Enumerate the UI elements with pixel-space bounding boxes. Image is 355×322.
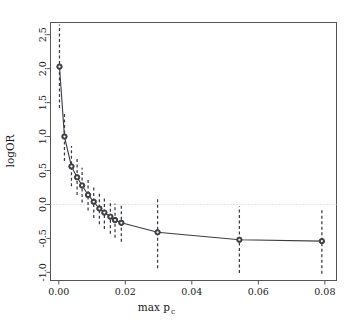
data-point-center [76,176,78,178]
x-axis-title: max p [138,301,170,313]
data-point-center [238,239,240,241]
data-points-group [57,64,325,244]
y-tick-label: 2.5 [37,27,48,42]
series-polyline [59,67,321,241]
data-point-center [81,184,83,186]
data-point-center [98,207,100,209]
data-point-center [87,194,89,196]
y-tick-label: -1.0 [37,263,48,281]
x-tick-label: 0.06 [248,286,269,297]
x-tick-label: 0.04 [181,286,202,297]
chart-container: -1.0-0.50.00.51.01.52.02.5 0.000.020.040… [0,0,355,322]
x-axis-title-subscript: c [171,307,175,316]
y-tick-label: -0.5 [37,229,48,247]
series-line-group [59,67,321,241]
x-tick-label: 0.08 [314,286,335,297]
logor-vs-maxpc-chart: -1.0-0.50.00.51.01.52.02.5 0.000.020.040… [0,0,355,322]
x-tick-label: 0.00 [48,286,69,297]
data-point-center [321,240,323,242]
y-axis-title: logOR [4,133,16,167]
data-point-center [70,165,72,167]
plot-frame [51,23,337,281]
data-point-center [63,135,65,137]
y-tick-label: 0.0 [37,197,48,212]
y-tick-label: 1.5 [37,95,48,110]
data-point-center [93,201,95,203]
data-point-center [58,66,60,68]
data-point-center [109,216,111,218]
y-tick-label: 1.0 [37,129,48,144]
data-point-center [120,222,122,224]
error-bars-group [59,25,321,274]
data-point-center [103,212,105,214]
y-tick-label: 2.0 [37,61,48,76]
y-axis: -1.0-0.50.00.51.01.52.02.5 [37,27,51,281]
data-point-center [114,219,116,221]
data-point-center [156,231,158,233]
x-tick-label: 0.02 [115,286,136,297]
y-tick-label: 0.5 [37,163,48,178]
x-axis: 0.000.020.040.060.08 [48,281,335,297]
